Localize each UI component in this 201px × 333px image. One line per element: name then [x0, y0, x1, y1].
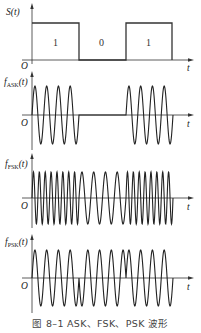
bit-label-1: 1 [53, 37, 58, 48]
psk-xlabel: t [187, 282, 190, 292]
fsk-origin-label: O [21, 201, 28, 211]
modulation-waveform-figure: S(t) O t 1 0 1 fASK(t) O t fFSK(t) O t f… [0, 0, 201, 333]
ask-origin-label: O [21, 118, 28, 128]
ask-x-arrow-icon [188, 113, 194, 116]
fsk-x-arrow-icon [188, 196, 194, 199]
psk-x-arrow-icon [188, 276, 194, 279]
psk-ylabel: fPSK(t) [5, 237, 28, 248]
psk-origin-label: O [21, 281, 28, 291]
panel-psk: fPSK(t) O t [5, 234, 194, 313]
fsk-ylabel: fFSK(t) [5, 159, 28, 170]
psk-y-arrow-icon [30, 234, 33, 240]
s-xlabel: t [187, 63, 190, 73]
fsk-xlabel: t [187, 202, 190, 212]
s-y-arrow-icon [30, 3, 33, 9]
s-origin-label: O [21, 61, 28, 71]
bit-label-2: 0 [99, 37, 104, 48]
ask-ylabel: fASK(t) [4, 77, 28, 88]
s-ylabel: S(t) [6, 7, 20, 18]
panel-ask: fASK(t) O t [4, 71, 194, 150]
panel-baseband-signal: S(t) O t 1 0 1 [6, 3, 194, 73]
ask-xlabel: t [187, 119, 190, 129]
s-x-arrow-icon [188, 58, 194, 61]
figure-caption: 图 8–1 ASK、FSK、PSK 波形 [0, 316, 201, 330]
panel-fsk: fFSK(t) O t [5, 153, 194, 228]
bit-label-3: 1 [146, 37, 151, 48]
fsk-y-arrow-icon [30, 153, 33, 159]
ask-y-arrow-icon [30, 71, 33, 77]
